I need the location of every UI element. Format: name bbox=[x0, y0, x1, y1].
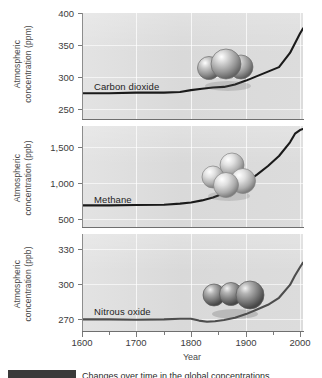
panel-nitrous-oxide: Nitrous oxide bbox=[82, 234, 303, 331]
y-tick-n2o bbox=[78, 284, 82, 285]
carbon-dioxide-molecule bbox=[195, 46, 257, 92]
panel-methane: Methane bbox=[82, 126, 303, 227]
y-tick-co2 bbox=[78, 109, 82, 110]
y-tick-label-ch4: 1,500 bbox=[30, 142, 74, 153]
x-tick-minor bbox=[164, 332, 165, 335]
series-label-nitrous-oxide: Nitrous oxide bbox=[94, 306, 151, 317]
y-tick-co2 bbox=[78, 45, 82, 46]
methane-molecule bbox=[200, 151, 258, 203]
y-axis-title-co2-line2: concentration (ppm) bbox=[23, 10, 34, 118]
figure-caption-label-bar bbox=[8, 370, 76, 378]
y-tick-ch4 bbox=[78, 219, 82, 220]
x-axis-title: Year bbox=[142, 352, 242, 362]
figure-caption-text: Changes over time in the global concentr… bbox=[82, 371, 318, 378]
y-tick-co2 bbox=[78, 13, 82, 14]
axis-bottom-n2o bbox=[82, 331, 304, 332]
y-tick-label-n2o: 300 bbox=[30, 279, 74, 290]
curve-carbon-dioxide bbox=[82, 13, 303, 119]
panel-carbon-dioxide: Carbon dioxide bbox=[82, 13, 303, 119]
y-tick-co2 bbox=[78, 77, 82, 78]
series-label-methane: Methane bbox=[94, 194, 132, 205]
y-tick-ch4 bbox=[78, 183, 82, 184]
nitrous-oxide-molecule bbox=[201, 276, 265, 320]
y-tick-label-co2: 300 bbox=[30, 72, 74, 83]
y-axis-title-ch4-line1: Atmospheric bbox=[12, 124, 23, 232]
x-tick-label: 1700 bbox=[116, 337, 156, 348]
y-tick-label-co2: 250 bbox=[30, 104, 74, 115]
y-axis-title-co2-line1: Atmospheric bbox=[12, 10, 23, 118]
x-tick-minor bbox=[273, 332, 274, 335]
y-tick-label-ch4: 1,000 bbox=[30, 178, 74, 189]
curve-methane bbox=[82, 126, 303, 227]
y-tick-n2o bbox=[78, 319, 82, 320]
axis-bottom-co2 bbox=[82, 119, 304, 120]
y-tick-n2o bbox=[78, 249, 82, 250]
greenhouse-gas-figure: Atmospheric concentration (ppm) bbox=[0, 0, 322, 378]
axis-left-co2 bbox=[82, 13, 83, 120]
y-tick-label-co2: 350 bbox=[30, 40, 74, 51]
series-label-carbon-dioxide: Carbon dioxide bbox=[94, 81, 159, 92]
axis-bottom-ch4 bbox=[82, 227, 304, 228]
x-tick-label: 1900 bbox=[226, 337, 266, 348]
y-axis-title-n2o-line1: Atmospheric bbox=[12, 230, 23, 338]
axis-left-n2o bbox=[82, 234, 83, 332]
y-tick-label-ch4: 500 bbox=[30, 214, 74, 225]
y-tick-label-n2o: 270 bbox=[30, 314, 74, 325]
x-tick-minor bbox=[109, 332, 110, 335]
y-tick-label-co2: 400 bbox=[30, 8, 74, 19]
y-tick-label-n2o: 330 bbox=[30, 244, 74, 255]
x-tick-minor bbox=[218, 332, 219, 335]
x-tick-label: 1800 bbox=[171, 337, 211, 348]
y-tick-ch4 bbox=[78, 147, 82, 148]
x-tick-label: 2000 bbox=[280, 337, 320, 348]
axis-left-ch4 bbox=[82, 126, 83, 228]
y-axis-title-co2: Atmospheric concentration (ppm) bbox=[12, 10, 33, 118]
x-tick-label: 1600 bbox=[62, 337, 102, 348]
